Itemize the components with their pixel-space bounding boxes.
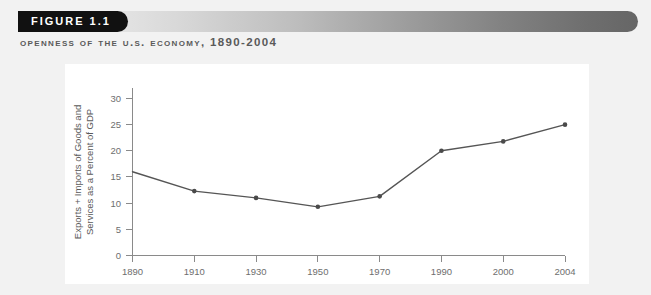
- y-tick-label: 15: [110, 171, 121, 182]
- figure-number-badge: FIGURE 1.1: [18, 11, 128, 32]
- y-tick-label: 0: [116, 250, 121, 261]
- x-tick-label: 1930: [246, 266, 267, 277]
- y-axis: 051015202530: [110, 88, 132, 261]
- x-axis-ticks: 18901910193019501970199020002004: [122, 256, 576, 278]
- line-chart: 051015202530 189019101930195019701990200…: [65, 64, 589, 284]
- figure-header: FIGURE 1.1 Openness of the U.S. Economy,…: [0, 0, 651, 62]
- x-tick-label: 2004: [554, 266, 575, 277]
- data-point-marker: [501, 139, 506, 144]
- y-tick-label: 30: [110, 93, 121, 104]
- y-tick-label: 20: [110, 145, 121, 156]
- chart-panel: 051015202530 189019101930195019701990200…: [65, 64, 589, 284]
- data-point-marker: [316, 205, 321, 210]
- x-tick-label: 1990: [431, 266, 452, 277]
- x-tick-label: 1970: [369, 266, 390, 277]
- y-axis-ticks: 051015202530: [110, 93, 132, 261]
- x-tick-label: 1890: [122, 266, 143, 277]
- x-tick-label: 2000: [493, 266, 514, 277]
- y-axis-title: Exports + Imports of Goods andServices a…: [72, 105, 95, 239]
- x-axis: 18901910193019501970199020002004: [122, 256, 576, 278]
- data-point-marker: [192, 189, 197, 194]
- y-tick-label: 5: [116, 224, 121, 235]
- x-tick-label: 1910: [184, 266, 205, 277]
- y-tick-label: 10: [110, 198, 121, 209]
- figure-number-label: FIGURE 1.1: [31, 16, 111, 27]
- figure-container: FIGURE 1.1 Openness of the U.S. Economy,…: [0, 0, 651, 295]
- y-tick-label: 25: [110, 119, 121, 130]
- figure-title: Openness of the U.S. Economy, 1890-2004: [20, 36, 277, 48]
- data-point-marker: [563, 122, 568, 127]
- data-series-markers: [192, 122, 567, 209]
- data-point-marker: [439, 149, 444, 154]
- x-tick-label: 1950: [307, 266, 328, 277]
- data-point-marker: [254, 196, 259, 201]
- data-point-marker: [377, 194, 382, 199]
- y-axis-title-line: Services as a Percent of GDP: [84, 109, 95, 235]
- data-series-line: [133, 125, 566, 207]
- y-axis-title-line: Exports + Imports of Goods and: [72, 105, 83, 239]
